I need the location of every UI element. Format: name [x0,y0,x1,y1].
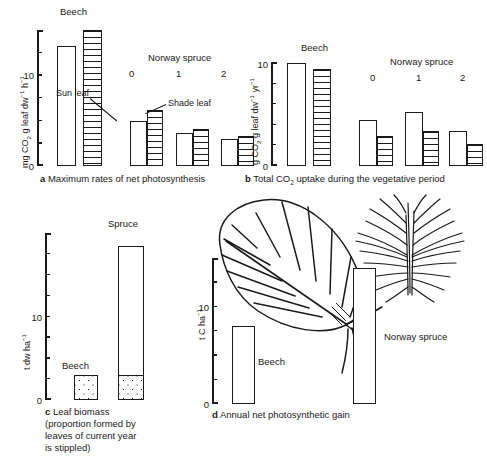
tick-10 [37,74,42,75]
ticklabel-10: 10 [23,70,34,81]
panel-c-ylabel: t dw ha−1 [22,334,32,370]
axis-cap-top [37,30,43,32]
panel-c-caption-line-4: is stippled) [45,442,90,453]
ticklabel-0: 0 [37,395,42,406]
tick-0 [271,165,276,166]
ticklabel-0: 0 [263,160,268,171]
panel-b-letter: b [245,173,251,184]
tick-4 [271,124,276,125]
panel-a: mg CO2 g leaf dw−1 h−1 0 10 Beech Norway… [0,0,243,195]
bar-spruce1-shade-leaf [423,131,439,166]
panel-a-caption-text: Maximum rates of net photosynthesis [48,173,205,184]
panel-c-caption-line-2: (proportion formed by [45,418,136,429]
panel-c-label-spruce: Spruce [108,218,138,229]
panel-d-letter: d [212,409,218,420]
bar-spruce-net-gain [353,268,376,404]
panel-a-annotation-sun-leaf: Sun leaf [56,88,89,99]
panel-c-caption-line-1: Leaf biomass [53,406,110,417]
panel-b: g CO2 g leaf dw−1 yr−1 0 10 Beech Norway… [243,0,487,195]
tick-6 [271,103,276,104]
tick-2-5 [37,142,42,143]
tick-0 [37,165,42,166]
panel-a-ylabel: mg CO2 g leaf dw−1 h−1 [20,76,30,168]
bar-beech-sun-leaf [287,63,306,166]
tick-5 [37,120,42,121]
tick-12-5 [37,52,42,53]
panel-b-caption-text: Total CO2 uptake during the vegetative p… [253,173,445,184]
panel-b-ylabel: g CO2 g leaf dw−1 yr−1 [250,78,260,165]
bar-spruce0-shade-leaf [377,136,393,166]
tick-8 [271,83,276,84]
bar-beech-sun-leaf [57,46,76,166]
panel-c-caption: c Leaf biomass (proportion formed by lea… [45,406,185,454]
figure-root: mg CO2 g leaf dw−1 h−1 0 10 Beech Norway… [0,0,487,472]
panel-d-label-spruce: Norway spruce [384,331,447,342]
bar-spruce2-sun-leaf [221,139,238,166]
panel-b-bars [277,0,477,166]
ticklabel-0: 0 [204,399,209,410]
bar-spruce0-sun-leaf [130,121,147,166]
bar-beech-leaf-biomass [74,375,98,400]
bar-spruce1-sun-leaf [176,133,193,166]
panel-a-letter: a [40,173,45,184]
panel-a-annotation-shade-leaf: Shade leaf [168,98,211,109]
bar-spruce2-sun-leaf [449,131,467,166]
ticklabel-0: 0 [29,161,34,172]
bar-spruce0-sun-leaf [359,120,377,166]
panel-c-caption-line-3: leaves of current year [45,430,136,441]
bar-spruce2-shade-leaf [467,144,483,166]
ticklabel-10: 10 [31,311,42,322]
ticklabel-10: 10 [198,301,209,312]
bar-beech-shade-leaf [313,69,331,166]
panel-a-bars [45,0,240,166]
panel-d-ylabel: t C ha−1 [197,309,207,340]
axis-line [271,62,273,166]
tick-2 [271,144,276,145]
bar-beech-net-gain [232,326,255,404]
panel-b-caption: b Total CO2 uptake during the vegetative… [245,173,445,185]
panel-d-caption: d Annual net photosynthetic gain [212,409,350,421]
bar-spruce-current-year-stippled [118,375,144,400]
panel-d-bars [212,195,442,404]
panel-d-caption-text: Annual net photosynthetic gain [220,409,350,420]
panel-c-label-beech: Beech [62,360,89,371]
panel-c-letter: c [45,406,50,417]
panel-a-caption: a Maximum rates of net photosynthesis [40,173,205,185]
bar-spruce1-shade-leaf [193,129,209,166]
panel-d-label-beech: Beech [258,356,285,367]
panel-c: t dw ha−1 0 10 Beech Sp [0,195,190,472]
ticklabel-10: 10 [257,59,268,70]
bar-spruce0-shade-leaf [147,110,163,166]
tick-7-5 [37,97,42,98]
panel-d: t C ha−1 0 10 Beech Norway spruce d [190,195,487,472]
bar-spruce1-sun-leaf [405,112,423,166]
